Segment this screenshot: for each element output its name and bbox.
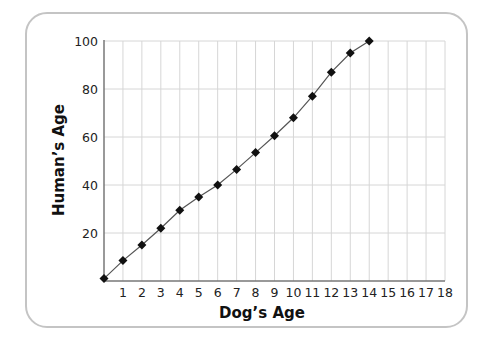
x-tick-label: 1 xyxy=(119,285,127,300)
x-tick-label: 6 xyxy=(214,285,222,300)
data-point-marker xyxy=(365,37,374,46)
x-tick-label: 16 xyxy=(399,285,415,300)
x-tick-label: 8 xyxy=(252,285,260,300)
x-tick-label: 2 xyxy=(138,285,146,300)
data-point-marker xyxy=(194,193,203,202)
x-tick-label: 12 xyxy=(323,285,339,300)
x-tick-label: 13 xyxy=(342,285,358,300)
y-tick-label: 40 xyxy=(82,178,98,193)
x-tick-label: 3 xyxy=(157,285,165,300)
y-tick-label: 80 xyxy=(82,82,98,97)
gridlines xyxy=(104,41,445,281)
x-tick-label: 10 xyxy=(285,285,301,300)
x-tick-label: 7 xyxy=(233,285,241,300)
x-axis-title: Dog’s Age xyxy=(219,304,305,322)
x-tick-label: 9 xyxy=(271,285,279,300)
x-tick-label: 11 xyxy=(304,285,320,300)
x-tick-label: 14 xyxy=(361,285,377,300)
x-tick-label: 18 xyxy=(437,285,453,300)
y-tick-label: 60 xyxy=(82,130,98,145)
x-tick-label: 15 xyxy=(380,285,396,300)
y-tick-label: 20 xyxy=(82,226,98,241)
y-tick-label: 100 xyxy=(74,34,98,49)
x-tick-label: 5 xyxy=(195,285,203,300)
x-axis-ticks: 123456789101112131415161718 xyxy=(119,285,453,300)
y-axis-title: Human’s Age xyxy=(50,104,68,216)
y-axis-ticks: 20406080100 xyxy=(74,34,98,241)
x-tick-label: 17 xyxy=(418,285,434,300)
line-chart: 20406080100 123456789101112131415161718 … xyxy=(0,0,504,352)
x-tick-label: 4 xyxy=(176,285,184,300)
